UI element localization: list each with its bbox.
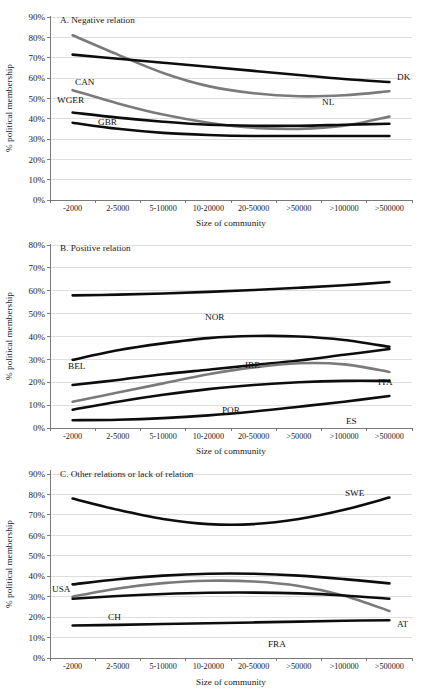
panel-b-ytick-label: 30%: [29, 355, 46, 365]
panel-c-ytick-label: 10%: [29, 633, 46, 643]
panel-b-ytick-label: 80%: [29, 240, 46, 250]
panel-a-yticks: 0%10%20%30%40%50%60%70%80%90%: [29, 12, 51, 205]
panel-b-ytick-label: 70%: [29, 263, 46, 273]
series-label-nl: NL: [322, 97, 335, 107]
series-label-fra: FRA: [268, 639, 286, 649]
panel-c-xtick-label: -2000: [63, 662, 82, 671]
panel-a-xtick-label: 2-5000: [106, 204, 129, 213]
panel-b-x-axis-title: Size of community: [196, 446, 266, 456]
panel-a-xtick-label: >500000: [375, 204, 404, 213]
panel-b-xtick-label: 2-5000: [106, 432, 129, 441]
panel-c-other-relations: 0%10%20%30%40%50%60%70%80%90% -20002-500…: [0, 462, 424, 690]
panel-c-xtick-label: >500000: [375, 662, 404, 671]
panel-a-x-axis-title: Size of community: [196, 218, 266, 228]
panel-c-ytick-label: 30%: [29, 592, 46, 602]
series-label-ch: CH: [108, 612, 121, 622]
panel-a-title: A. Negative relation: [60, 15, 135, 25]
panel-b-xtick-label: >50000: [286, 432, 311, 441]
series-line-usa: [73, 574, 390, 585]
series-line-swe: [73, 498, 390, 525]
panel-c-svg: 0%10%20%30%40%50%60%70%80%90% -20002-500…: [0, 462, 424, 690]
panel-c-xtick-label: 5-10000: [149, 662, 176, 671]
cut-off-caption: [18, 0, 418, 1]
series-label-at: AT: [397, 619, 409, 629]
panel-a-gridlines: [50, 17, 412, 200]
panel-c-title: C. Other relations or lack of relation: [60, 469, 194, 479]
series-label-dk: DK: [397, 72, 411, 82]
series-label-ire: IRE: [245, 360, 260, 370]
panel-a-series: [73, 35, 390, 136]
series-line-ch: [73, 593, 390, 599]
panel-b-xtick-label: -2000: [63, 432, 82, 441]
panel-a-ytick-label: 90%: [29, 12, 46, 22]
panel-b-xtick-label: 20-50000: [238, 432, 269, 441]
panel-c-xtick-label: 2-5000: [106, 662, 129, 671]
panel-c-ytick-label: 20%: [29, 612, 46, 622]
panel-a-y-axis-title: % political membership: [4, 64, 14, 152]
panel-a-xtick-label: >100000: [330, 204, 359, 213]
panel-b-title: B. Positive relation: [60, 243, 131, 253]
panel-a-xtick-label: 10-20000: [193, 204, 224, 213]
panel-a-ytick-label: 0%: [33, 195, 46, 205]
panel-b-ytick-label: 40%: [29, 332, 46, 342]
panel-b-xtick-label: 5-10000: [149, 432, 176, 441]
panel-a-xtick-label: >50000: [286, 204, 311, 213]
figure-page: 0%10%20%30%40%50%60%70%80%90% -20002-500…: [0, 0, 424, 693]
series-line-nl: [73, 35, 390, 96]
panel-a-ytick-label: 50%: [29, 94, 46, 104]
panel-c-xtick-label: >50000: [286, 662, 311, 671]
panel-a-xtick-label: 20-50000: [238, 204, 269, 213]
series-label-swe: SWE: [345, 488, 365, 498]
series-label-por: POR: [222, 405, 241, 415]
panel-c-ytick-label: 90%: [29, 469, 46, 479]
panel-a-ytick-label: 70%: [29, 53, 46, 63]
panel-a-ytick-label: 10%: [29, 175, 46, 185]
series-line-nor: [73, 282, 390, 295]
panel-b-series: [73, 282, 390, 420]
panel-a-svg: 0%10%20%30%40%50%60%70%80%90% -20002-500…: [0, 8, 424, 230]
panel-b-ytick-label: 20%: [29, 377, 46, 387]
panel-a-negative-relation: 0%10%20%30%40%50%60%70%80%90% -20002-500…: [0, 8, 424, 230]
panel-c-xtick-label: >100000: [330, 662, 359, 671]
panel-c-xticks: -20002-50005-1000010-2000020-50000>50000…: [50, 658, 412, 671]
series-label-can: CAN: [75, 77, 95, 87]
series-line-ire: [73, 349, 390, 385]
panel-b-svg: 0%10%20%30%40%50%60%70%80% -20002-50005-…: [0, 236, 424, 458]
panel-b-ytick-label: 60%: [29, 286, 46, 296]
panel-c-x-axis-title: Size of community: [196, 677, 266, 687]
panel-a-xtick-label: -2000: [63, 204, 82, 213]
panel-b-xticks: -20002-50005-1000010-2000020-50000>50000…: [50, 428, 412, 441]
panel-c-ytick-label: 50%: [29, 551, 46, 561]
panel-c-ytick-label: 60%: [29, 531, 46, 541]
panel-b-ytick-label: 10%: [29, 400, 46, 410]
panel-b-xtick-label: >100000: [330, 432, 359, 441]
series-label-nor: NOR: [205, 312, 225, 322]
panel-c-xtick-label: 20-50000: [238, 662, 269, 671]
panel-b-xtick-label: 10-20000: [193, 432, 224, 441]
panel-a-ytick-label: 20%: [29, 155, 46, 165]
panel-a-xticks: -20002-50005-1000010-2000020-50000>50000…: [50, 200, 412, 213]
panel-c-ytick-label: 70%: [29, 510, 46, 520]
panel-c-y-axis-title: % political membership: [4, 520, 14, 608]
panel-a-ytick-label: 80%: [29, 33, 46, 43]
panel-c-ytick-label: 80%: [29, 490, 46, 500]
series-label-wger: WGER: [57, 95, 85, 105]
panel-a-ytick-label: 30%: [29, 134, 46, 144]
panel-c-gridlines: [50, 474, 412, 658]
panel-b-positive-relation: 0%10%20%30%40%50%60%70%80% -20002-50005-…: [0, 236, 424, 458]
panel-b-xtick-label: >500000: [375, 432, 404, 441]
panel-c-series: [73, 498, 390, 626]
series-label-gbr: GBR: [98, 117, 118, 127]
series-label-bel: BEL: [68, 361, 86, 371]
panel-b-ytick-label: 0%: [33, 423, 46, 433]
series-label-usa: USA: [52, 584, 71, 594]
panel-c-ytick-label: 0%: [33, 653, 46, 663]
panel-a-ytick-label: 40%: [29, 114, 46, 124]
panel-b-y-axis-title: % political membership: [4, 292, 14, 380]
panel-c-yticks: 0%10%20%30%40%50%60%70%80%90%: [29, 469, 51, 663]
panel-a-ytick-label: 60%: [29, 73, 46, 83]
series-label-ita: ITA: [378, 377, 393, 387]
panel-b-yticks: 0%10%20%30%40%50%60%70%80%: [29, 240, 51, 433]
panel-a-xtick-label: 5-10000: [149, 204, 176, 213]
panel-b-ytick-label: 50%: [29, 309, 46, 319]
